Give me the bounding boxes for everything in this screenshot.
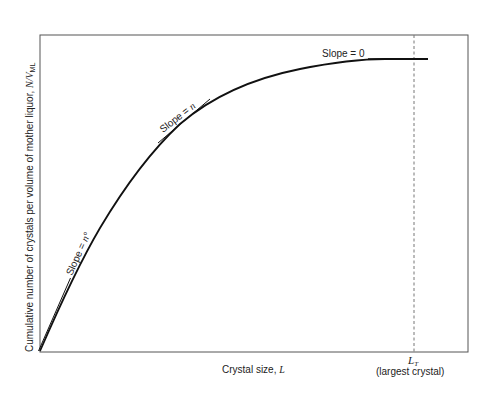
slope-mid-label: Slope = n (157, 100, 197, 135)
y-axis-label: Cumulative number of crystals per volume… (24, 63, 36, 352)
cumulative-curve (40, 59, 428, 351)
tangent-origin (39, 278, 71, 351)
x-axis-label: Crystal size, L (222, 364, 285, 375)
slope-end-label: Slope = 0 (322, 48, 365, 59)
crystal-size-diagram: Slope = n° Slope = n Slope = 0 Cumulativ… (0, 0, 492, 397)
lt-caption: (largest crystal) (376, 366, 444, 377)
